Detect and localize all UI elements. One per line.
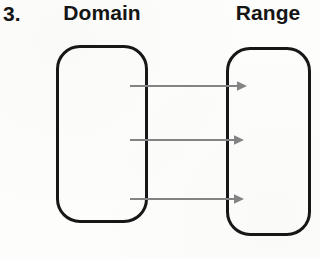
range-heading-label: Range [224,1,312,25]
range-set-oval [226,47,311,236]
mapping-diagram-figure: 3. Domain Range [0,0,320,259]
item-number-label: 3. [3,2,21,26]
domain-heading-label: Domain [55,1,149,25]
domain-set-oval [56,45,148,223]
